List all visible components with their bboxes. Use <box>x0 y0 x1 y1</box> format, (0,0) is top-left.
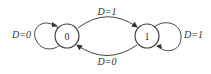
self-loop-0-arrowhead <box>52 22 58 27</box>
state-1-label: 1 <box>145 31 150 42</box>
label-self-loop-0: D=0 <box>11 29 31 40</box>
transition-1-to-0 <box>77 45 137 56</box>
label-transition-0-to-1: D=1 <box>97 6 117 17</box>
state-0-label: 0 <box>65 31 70 42</box>
state-0: 0 <box>55 24 79 48</box>
state-1: 1 <box>135 24 159 48</box>
state-diagram: 0 1 D=1 D=0 D=0 D=1 <box>0 0 211 74</box>
label-transition-1-to-0: D=0 <box>97 56 117 67</box>
label-self-loop-1: D=1 <box>183 29 203 40</box>
transition-0-to-1 <box>78 17 137 28</box>
